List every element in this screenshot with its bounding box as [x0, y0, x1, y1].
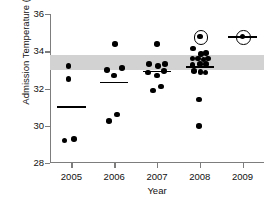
data-point	[111, 73, 117, 79]
data-point	[154, 41, 160, 47]
data-point	[162, 61, 168, 67]
x-axis-tick-label: 2007	[133, 171, 181, 182]
x-axis-tick	[157, 163, 158, 168]
x-axis-tick-label: 2005	[47, 171, 95, 182]
y-axis-tick-label: 30	[8, 121, 44, 131]
x-axis-tick	[71, 163, 72, 168]
data-point	[197, 34, 203, 40]
data-point	[114, 112, 120, 118]
data-point	[161, 68, 167, 74]
y-axis-tick-label: 36	[8, 9, 44, 19]
plot-area	[50, 14, 264, 163]
data-point	[203, 70, 209, 76]
x-axis-tick-label: 2008	[176, 171, 224, 182]
mean-line	[100, 82, 128, 84]
y-axis-tick-label: 32	[8, 84, 44, 94]
x-axis-tick-label: 2009	[219, 171, 267, 182]
data-point	[71, 136, 77, 142]
data-point	[66, 76, 72, 82]
data-point	[196, 97, 202, 103]
data-point	[196, 123, 202, 129]
data-point	[112, 41, 118, 47]
x-axis-tick	[243, 163, 244, 168]
x-axis-title: Year	[50, 186, 264, 196]
data-point	[155, 63, 161, 69]
y-axis-title: Admission Temperature (°C)	[21, 0, 31, 125]
y-axis-tick-label: 28	[8, 158, 44, 168]
data-point	[62, 138, 68, 144]
data-point	[203, 61, 209, 67]
data-point	[106, 118, 112, 124]
data-point	[66, 63, 72, 69]
chart-figure: Admission Temperature (°C) Year 28303234…	[0, 0, 272, 208]
data-point	[150, 88, 156, 94]
data-point	[145, 70, 151, 76]
data-point	[154, 73, 160, 79]
data-point	[191, 68, 197, 74]
data-point	[119, 65, 125, 71]
y-axis-tick-label: 34	[8, 46, 44, 56]
y-axis-tick	[45, 163, 50, 164]
data-point	[104, 67, 110, 73]
mean-line	[57, 106, 85, 108]
data-point	[190, 46, 196, 52]
x-axis-tick	[200, 163, 201, 168]
x-axis-tick-label: 2006	[90, 171, 138, 182]
x-axis-tick	[114, 163, 115, 168]
data-point	[158, 84, 164, 90]
